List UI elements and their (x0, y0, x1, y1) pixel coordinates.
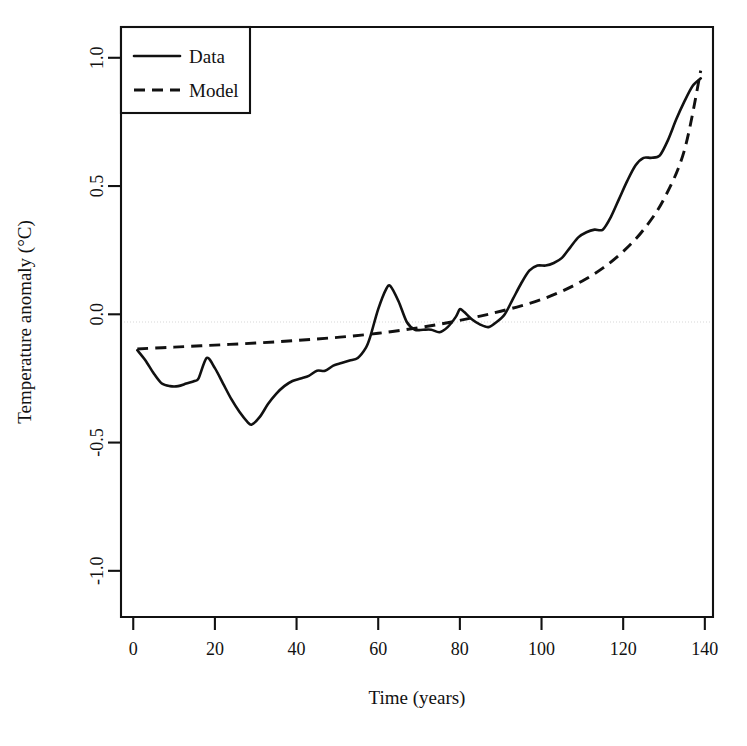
series-line-data (137, 78, 700, 425)
y-tick-label: 0.5 (87, 175, 107, 198)
x-tick-label: 40 (288, 639, 306, 659)
y-tick-label: 0.0 (87, 303, 107, 326)
chart-figure: 020406080100120140 -1.0-0.50.00.51.0 Tim… (0, 0, 747, 746)
x-tick-label: 20 (206, 639, 224, 659)
x-tick-label: 60 (369, 639, 387, 659)
x-tick-label: 80 (451, 639, 469, 659)
y-axis-ticks (108, 58, 121, 571)
x-tick-label: 140 (691, 639, 718, 659)
y-tick-label: -0.5 (87, 428, 107, 457)
legend-label-data: Data (189, 46, 225, 67)
y-axis-title: Temperature anomaly (°C) (14, 220, 36, 424)
plot-frame (121, 27, 713, 617)
y-axis-tick-labels: -1.0-0.50.00.51.0 (87, 47, 107, 586)
x-tick-label: 100 (528, 639, 555, 659)
y-tick-label: 1.0 (87, 47, 107, 70)
legend-label-model: Model (189, 80, 239, 101)
chart-canvas: 020406080100120140 -1.0-0.50.00.51.0 Tim… (0, 0, 747, 746)
x-tick-label: 0 (129, 639, 138, 659)
chart-legend: Data Model (121, 27, 250, 113)
x-axis-tick-labels: 020406080100120140 (129, 639, 719, 659)
x-axis-title: Time (years) (369, 687, 466, 709)
x-tick-label: 120 (610, 639, 637, 659)
y-tick-label: -1.0 (87, 557, 107, 586)
x-axis-ticks (133, 617, 705, 630)
